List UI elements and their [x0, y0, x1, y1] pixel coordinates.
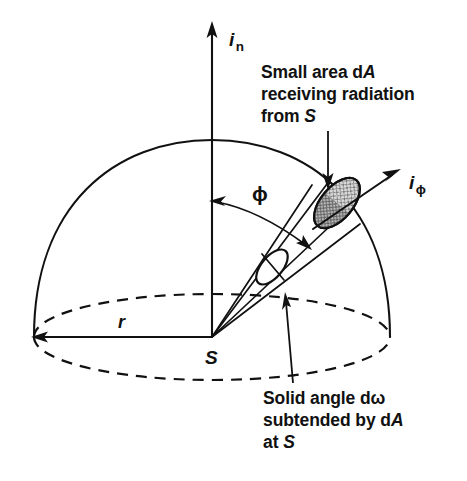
phi-axis-label: iϕ — [409, 172, 426, 197]
area-annotation-text: Small area dA receiving radiation from S — [261, 62, 415, 126]
phi-angle-arc — [217, 202, 306, 245]
phi-axis-subscript: ϕ — [416, 182, 426, 197]
diagram-canvas: in r S iϕ ϕ — [0, 0, 467, 481]
solid-angle-annotation-line-1: Solid angle dω — [263, 388, 386, 408]
normal-axis-symbol: i — [229, 29, 235, 50]
source-point-label: S — [205, 347, 218, 368]
radiation-hemisphere-diagram: in r S iϕ ϕ — [0, 0, 467, 481]
solid-angle-annotation-line-3: at S — [263, 432, 295, 452]
phi-angle-label: ϕ — [252, 182, 268, 205]
area-annotation-line-1: Small area dA — [261, 62, 375, 82]
solid-angle-annotation-leader-line — [286, 302, 293, 383]
cone-edge-lower-right — [212, 224, 360, 337]
area-annotation-line-2: receiving radiation — [261, 84, 415, 104]
area-annotation-line-3: from S — [261, 106, 316, 126]
phi-angle-arrowhead-cone — [296, 235, 312, 250]
normal-axis-subscript: n — [236, 39, 244, 54]
normal-axis-label: in — [229, 29, 244, 54]
radius-label: r — [118, 312, 126, 332]
phi-axis-symbol: i — [409, 172, 415, 193]
solid-angle-annotation-text: Solid angle dω subtended by dA at S — [263, 388, 403, 452]
small-area-patch — [305, 170, 368, 237]
solid-angle-annotation-line-2: subtended by dA — [263, 410, 403, 430]
